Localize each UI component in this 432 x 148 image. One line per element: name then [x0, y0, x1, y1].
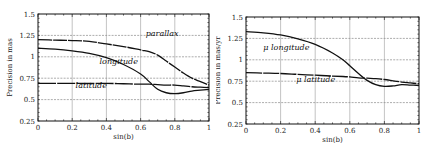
y-axis-label: Precision in mas/yr	[216, 36, 222, 105]
plot-frame	[38, 14, 209, 121]
curve-label: longitude	[100, 57, 139, 66]
y-tick-label: 0.5	[24, 96, 35, 104]
x-tick-label: 0.4	[310, 127, 322, 135]
y-tick-label: 1.25	[19, 32, 35, 40]
y-tick-label: 1	[239, 56, 243, 64]
y-tick-labels: 0.250.50.7511.251.5	[227, 14, 243, 129]
x-tick-label: 0.2	[275, 127, 286, 135]
y-tick-label: 0.5	[232, 99, 243, 107]
x-tick-label: 0.6	[344, 127, 356, 135]
y-axis-label: Precision in mas	[6, 38, 14, 97]
curves	[38, 40, 209, 94]
x-tick-label: 0	[244, 127, 248, 135]
curve-label: μ latitude	[296, 75, 335, 84]
x-tick-label: 0.8	[379, 127, 390, 135]
axis-ticks	[38, 14, 209, 121]
curve-label: latitude	[76, 81, 108, 90]
y-tick-labels: 0.250.50.7511.251.5	[19, 11, 35, 126]
axis-ticks	[246, 17, 419, 124]
grid	[38, 14, 209, 121]
x-tick-label: 0.4	[101, 124, 113, 132]
x-axis-label: sin(b)	[322, 136, 343, 144]
y-tick-label: 0.75	[19, 75, 35, 83]
x-tick-label: 1	[207, 124, 211, 132]
x-tick-label: 0.2	[67, 124, 78, 132]
y-tick-label: 1.5	[24, 11, 35, 19]
curve-label: parallax	[146, 29, 179, 38]
x-tick-label: 0	[36, 124, 40, 132]
x-tick-label: 0.8	[169, 124, 180, 132]
y-tick-label: 0.25	[19, 118, 35, 126]
plot-frame	[246, 17, 419, 124]
x-axis-label: sin(b)	[113, 133, 134, 141]
y-tick-label: 0.25	[227, 121, 243, 129]
y-tick-label: 0.75	[227, 78, 243, 86]
x-tick-labels: 00.20.40.60.81	[36, 124, 211, 132]
left-chart: 00.20.40.60.810.250.50.7511.251.5sin(b)P…	[0, 0, 216, 148]
left-chart-panel: 00.20.40.60.810.250.50.7511.251.5sin(b)P…	[0, 0, 216, 148]
x-tick-labels: 00.20.40.60.81	[244, 127, 421, 135]
y-tick-label: 1.5	[232, 14, 243, 22]
y-tick-label: 1.25	[227, 35, 243, 43]
curve-latitude	[38, 83, 209, 87]
x-tick-label: 1	[417, 127, 421, 135]
right-chart: 00.20.40.60.810.250.50.7511.251.5sin(b)P…	[216, 0, 432, 148]
curve-longitude	[38, 48, 209, 93]
grid	[246, 17, 419, 124]
x-tick-label: 0.6	[135, 124, 147, 132]
y-tick-label: 1	[31, 53, 35, 61]
curve-label: μ longitude	[263, 43, 309, 52]
right-chart-panel: 00.20.40.60.810.250.50.7511.251.5sin(b)P…	[216, 0, 432, 148]
